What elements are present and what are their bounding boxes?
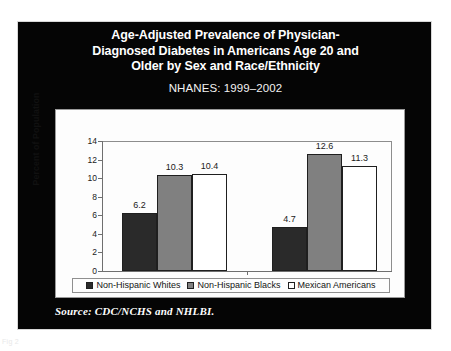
- legend-item-non-hispanic-whites: Non-Hispanic Whites: [86, 281, 180, 290]
- bar: [307, 154, 342, 271]
- y-axis-tick: [98, 252, 102, 253]
- y-axis-title: Percent of Population: [31, 79, 41, 199]
- y-axis-tick: [98, 271, 102, 272]
- source-note: Source: CDC/NCHS and NHLBI.: [55, 305, 214, 317]
- legend-swatch-non-hispanic-whites: [86, 282, 93, 289]
- slide-image: Age-Adjusted Prevalence of Physician- Di…: [0, 0, 451, 351]
- title-line-1: Age-Adjusted Prevalence of Physician-: [18, 28, 433, 44]
- page-caption: Fig 2: [2, 338, 19, 345]
- y-axis-line: [102, 141, 103, 272]
- y-axis-tick-label: 10: [57, 174, 97, 182]
- legend-swatch-mexican-americans: [288, 282, 295, 289]
- y-axis-tick: [98, 160, 102, 161]
- y-axis-tick-label: 6: [57, 211, 97, 219]
- y-axis-tick: [98, 141, 102, 142]
- bar-value-label: 6.2: [120, 201, 160, 210]
- y-axis-tick-label: 0: [57, 267, 97, 275]
- plot-top-border: [102, 141, 392, 142]
- plot-right-border: [391, 141, 392, 271]
- bar-value-label: 10.4: [190, 162, 230, 171]
- y-axis-tick-label: 8: [57, 193, 97, 201]
- legend-swatch-non-hispanic-blacks: [187, 282, 194, 289]
- y-axis-tick: [98, 234, 102, 235]
- slide-panel: Age-Adjusted Prevalence of Physician- Di…: [17, 21, 432, 330]
- y-axis-tick-label: 12: [57, 156, 97, 164]
- bar: [272, 227, 307, 271]
- y-axis-tick-label: 2: [57, 248, 97, 256]
- plot-area: 024681012146.210.310.4Men4.712.611.3Wome…: [102, 141, 392, 271]
- bar: [122, 213, 157, 271]
- y-axis-tick-label: 4: [57, 230, 97, 238]
- y-axis-tick: [98, 197, 102, 198]
- legend-label-non-hispanic-whites: Non-Hispanic Whites: [96, 281, 180, 290]
- bar-value-label: 10.3: [155, 163, 195, 172]
- bar-value-label: 12.6: [305, 142, 345, 151]
- bar: [192, 174, 227, 271]
- bar-value-label: 4.7: [270, 215, 310, 224]
- x-axis-tick: [247, 271, 248, 275]
- legend-label-non-hispanic-blacks: Non-Hispanic Blacks: [197, 281, 280, 290]
- title-line-2: Diagnosed Diabetes in Americans Age 20 a…: [18, 44, 433, 60]
- legend-item-mexican-americans: Mexican Americans: [288, 281, 376, 290]
- chart-legend: Non-Hispanic Whites Non-Hispanic Blacks …: [72, 278, 390, 293]
- legend-label-mexican-americans: Mexican Americans: [298, 281, 376, 290]
- legend-item-non-hispanic-blacks: Non-Hispanic Blacks: [187, 281, 280, 290]
- slide-title: Age-Adjusted Prevalence of Physician- Di…: [18, 28, 433, 75]
- bar-value-label: 11.3: [340, 154, 380, 163]
- y-axis-tick: [98, 178, 102, 179]
- bar: [342, 166, 377, 271]
- slide-subtitle: NHANES: 1999–2002: [18, 82, 433, 94]
- chart-card: Percent of Population 024681012146.210.3…: [55, 109, 405, 298]
- y-axis-tick: [98, 215, 102, 216]
- title-line-3: Older by Sex and Race/Ethnicity: [18, 59, 433, 75]
- bar: [157, 175, 192, 271]
- y-axis-tick-label: 14: [57, 137, 97, 145]
